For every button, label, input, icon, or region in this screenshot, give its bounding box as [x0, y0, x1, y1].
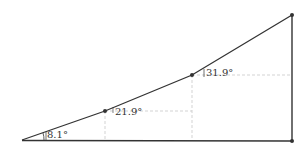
point-p1	[103, 109, 107, 113]
origin-angle-arc	[43, 133, 44, 140]
angle-diagram: 8.1° 21.9° 31.9°	[0, 0, 306, 153]
point-top	[290, 13, 294, 17]
point-p2	[190, 73, 194, 77]
angle-label-p1: 21.9°	[115, 106, 142, 117]
slope-path	[22, 15, 292, 140]
point-bottom-right	[290, 139, 294, 143]
angle-label-p2: 31.9°	[206, 67, 233, 78]
baseline	[22, 141, 292, 142]
angle-label-origin: 8.1°	[47, 129, 68, 140]
